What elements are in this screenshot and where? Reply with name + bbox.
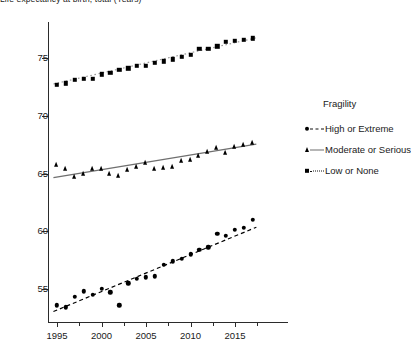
data-point [179,257,183,261]
data-point [143,160,147,165]
x-tick-label: 1995 [37,330,77,341]
data-point [188,252,192,256]
data-point [153,274,157,278]
data-point [206,47,210,51]
legend-marker-square-icon [305,168,309,172]
legend-item-moderate-or-serious[interactable]: Moderate or Serious [305,139,411,160]
data-point [197,47,201,51]
x-tick-mark-2015 [235,322,236,327]
data-point [64,305,68,309]
data-point [108,71,112,75]
data-point [153,60,157,64]
legend-line-swatch [310,170,324,171]
legend-item-label: Low or None [325,165,379,176]
legend-key-icon [305,144,325,156]
data-point [81,289,85,293]
y-tick-label: 75 [24,52,48,63]
data-point [251,36,255,40]
data-point [233,228,237,232]
y-tick-label: 65 [24,168,48,179]
data-point [224,40,228,44]
data-point [64,81,68,85]
x-tick-label: 2005 [126,330,166,341]
legend-item-high-or-extreme[interactable]: High or Extreme [305,118,411,139]
data-point [117,303,121,307]
data-point [73,295,77,299]
data-point [54,162,58,167]
data-point [126,66,130,70]
trend-line-moderate-or-serious [53,144,256,177]
legend-item-low-or-none[interactable]: Low or None [305,160,411,181]
life-expectancy-chart: Life expectancy at birth, total (Years) … [0,0,411,351]
data-point [144,275,148,279]
data-point [135,64,139,68]
data-point [170,57,174,61]
data-point [206,245,210,249]
x-tick-mark-2000 [102,322,103,327]
legend-line-swatch [310,128,324,129]
data-point [197,248,201,252]
x-tick-label: 2000 [82,330,122,341]
data-point [161,165,165,170]
data-point [107,170,111,175]
data-point [170,259,174,263]
data-point [179,55,183,59]
data-point [233,38,237,42]
data-point [215,231,219,235]
x-tick-minor [124,322,125,326]
x-tick-mark-2005 [146,322,147,327]
data-point [242,226,246,230]
x-tick-minor [213,322,214,326]
y-axis-title: Life expectancy at birth, total (Years) [0,0,142,4]
data-point [144,64,148,68]
data-point [117,67,121,71]
x-tick-label: 2015 [215,330,255,341]
data-point [90,166,94,171]
data-point [63,166,67,171]
data-point [179,158,183,163]
data-point [125,167,129,172]
data-point [214,145,218,150]
x-tick-minor [257,322,258,326]
data-point [250,140,254,145]
data-point [196,153,200,158]
legend-key-icon [305,165,325,177]
x-tick-mark-1995 [57,322,58,327]
legend-line-swatch [310,149,324,150]
data-point [135,276,139,280]
legend-marker-circle-icon [305,126,309,130]
legend: Fragility High or ExtremeModerate or Ser… [305,98,411,181]
trend-line-high-or-extreme [53,227,256,311]
data-point [73,78,77,82]
data-point [99,166,103,171]
legend-key-icon [305,123,325,135]
data-point [215,44,219,48]
data-point [72,174,76,179]
data-point [242,37,246,41]
data-point [152,166,156,171]
data-point [170,163,174,168]
data-point [205,148,209,153]
data-point [81,77,85,81]
y-tick-label: 70 [24,110,48,121]
data-point [55,82,59,86]
legend-item-label: Moderate or Serious [325,144,411,155]
data-point [162,59,166,63]
data-point [251,217,255,221]
data-point [90,293,94,297]
y-axis-line [48,22,49,322]
data-point [116,173,120,178]
data-point [188,156,192,161]
x-tick-mark-2010 [191,322,192,327]
legend-marker-triangle-icon [305,147,309,152]
data-point [81,170,85,175]
legend-item-label: High or Extreme [325,123,394,134]
data-point [241,141,245,146]
data-point [108,290,112,294]
legend-title: Fragility [323,98,411,109]
data-point [55,303,59,307]
data-point [126,281,130,285]
x-tick-minor [168,322,169,326]
y-tick-label: 60 [24,225,48,236]
data-point [99,287,103,291]
